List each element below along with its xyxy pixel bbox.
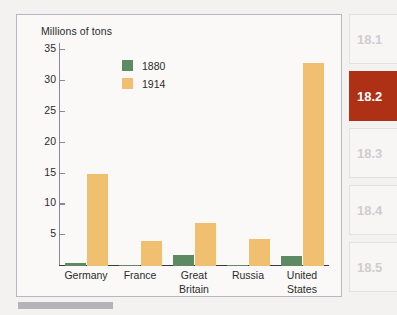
y-tick-5: 5 [17,234,65,235]
y-tick-label: 10 [44,196,56,208]
bar-1880 [119,265,140,267]
x-axis-category-labels: GermanyFranceGreatBritainRussiaUnitedSta… [59,269,333,303]
bar-group [275,15,329,266]
bar-series-container [59,15,329,266]
chart-frame: Millions of tons 5101520253035 18801914 … [16,14,342,297]
category-label: UnitedStates [267,269,337,296]
category-label-line: United [267,269,337,283]
sidebar-tab-18-2[interactable]: 18.2 [349,71,397,121]
y-tick-35: 35 [17,49,65,50]
y-tick-25: 25 [17,111,65,112]
bar-1914 [249,239,270,266]
category-label-line: Britain [159,283,229,297]
y-tick-label: 15 [44,166,56,178]
bar-1914 [141,241,162,266]
y-tick-label: 35 [44,42,56,54]
plot-area: Millions of tons 5101520253035 18801914 … [17,15,341,296]
bar-1914 [303,63,324,267]
category-label-line: States [267,283,337,297]
y-tick-label: 5 [50,227,56,239]
y-tick-label: 20 [44,135,56,147]
sidebar-tab-18-3[interactable]: 18.3 [349,128,397,178]
bar-1914 [195,223,216,266]
section-tab-sidebar[interactable]: 18.118.218.318.418.5 [349,14,397,304]
bar-1880 [227,265,248,267]
bar-group [59,15,113,266]
y-tick-10: 10 [17,203,65,204]
sidebar-tab-18-1[interactable]: 18.1 [349,14,397,64]
y-tick-15: 15 [17,173,65,174]
bar-1880 [281,256,302,266]
bar-group [113,15,167,266]
y-tick-30: 30 [17,80,65,81]
y-tick-20: 20 [17,142,65,143]
bar-1914 [87,174,108,267]
footer-rule [18,302,113,309]
bar-1880 [173,255,194,266]
bar-1880 [65,263,86,266]
y-tick-label: 25 [44,104,56,116]
page-canvas: Millions of tons 5101520253035 18801914 … [0,0,397,315]
sidebar-tab-18-5[interactable]: 18.5 [349,242,397,292]
sidebar-tab-18-4[interactable]: 18.4 [349,185,397,235]
y-tick-label: 30 [44,73,56,85]
bar-group [167,15,221,266]
bar-group [221,15,275,266]
